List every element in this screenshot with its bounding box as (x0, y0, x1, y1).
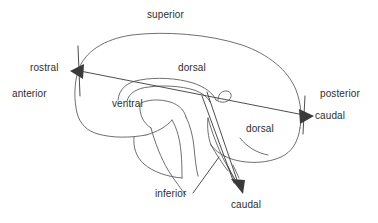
brainstem-axis-line-2 (202, 96, 234, 183)
label-posterior: posterior (320, 88, 360, 99)
label-dorsal-brainstem: dorsal (246, 123, 274, 134)
cerebellum-fissure (240, 138, 268, 155)
brainstem-axis-line (207, 92, 238, 183)
temporal-lobe-outline (134, 137, 182, 178)
label-dorsal-forebrain: dorsal (178, 62, 206, 73)
midbrain-anterior-border (186, 117, 198, 176)
label-caudal-vertical: caudal (231, 199, 261, 210)
brainstem-anterior-contour (151, 128, 186, 195)
inferior-pointer-line (193, 157, 219, 193)
fourth-ventricle-line (211, 145, 228, 171)
brain-orientation-diagram: superior rostral anterior dorsal ventral… (0, 0, 378, 223)
arrow-right-icon (299, 109, 314, 124)
cortex-dorsal-outline (78, 33, 301, 128)
thalamus-outline (141, 100, 186, 117)
arrow-left-icon (70, 64, 84, 79)
label-caudal-horizontal: caudal (315, 110, 345, 121)
label-inferior: inferior (155, 188, 186, 199)
label-rostral: rostral (30, 62, 58, 73)
label-superior: superior (147, 9, 184, 20)
label-ventral: ventral (112, 98, 143, 109)
arrow-down-icon (231, 179, 245, 194)
label-anterior: anterior (12, 88, 47, 99)
temporal-lobe-superior-border (172, 120, 182, 178)
